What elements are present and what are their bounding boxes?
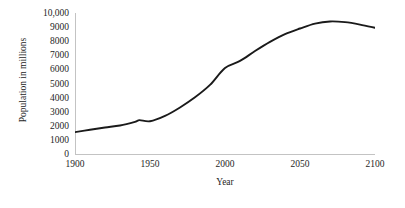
y-axis-tick-label: 8000 xyxy=(0,36,69,46)
x-axis-tick-label: 1950 xyxy=(120,158,180,171)
x-axis-tick-labels: 19001950200020502100 xyxy=(0,158,405,172)
x-axis-tick-label: 2050 xyxy=(270,158,330,171)
x-axis-tick-label: 2000 xyxy=(195,158,255,171)
y-axis-tick-labels: 010002000300040005000600070008000900010,… xyxy=(0,0,69,208)
y-axis-tick-label: 9000 xyxy=(0,22,69,32)
x-axis-tick-label: 1900 xyxy=(45,158,105,171)
x-axis-title: Year xyxy=(75,176,375,189)
y-axis-tick-label: 2000 xyxy=(0,121,69,131)
y-axis-tick-label: 1000 xyxy=(0,135,69,145)
plot-area xyxy=(75,13,375,155)
x-axis-tick-label: 2100 xyxy=(345,158,405,171)
y-axis-tick-label: 10,000 xyxy=(0,8,69,18)
y-axis-tick-label: 5000 xyxy=(0,79,69,89)
series-layer xyxy=(75,13,375,155)
population-line-chart: Population in millions 01000200030004000… xyxy=(0,0,405,208)
series-line-world-population xyxy=(75,21,375,132)
y-axis-tick-label: 6000 xyxy=(0,64,69,74)
y-axis-tick-label: 7000 xyxy=(0,50,69,60)
y-axis-tick-label: 4000 xyxy=(0,93,69,103)
y-axis-tick-label: 3000 xyxy=(0,107,69,117)
